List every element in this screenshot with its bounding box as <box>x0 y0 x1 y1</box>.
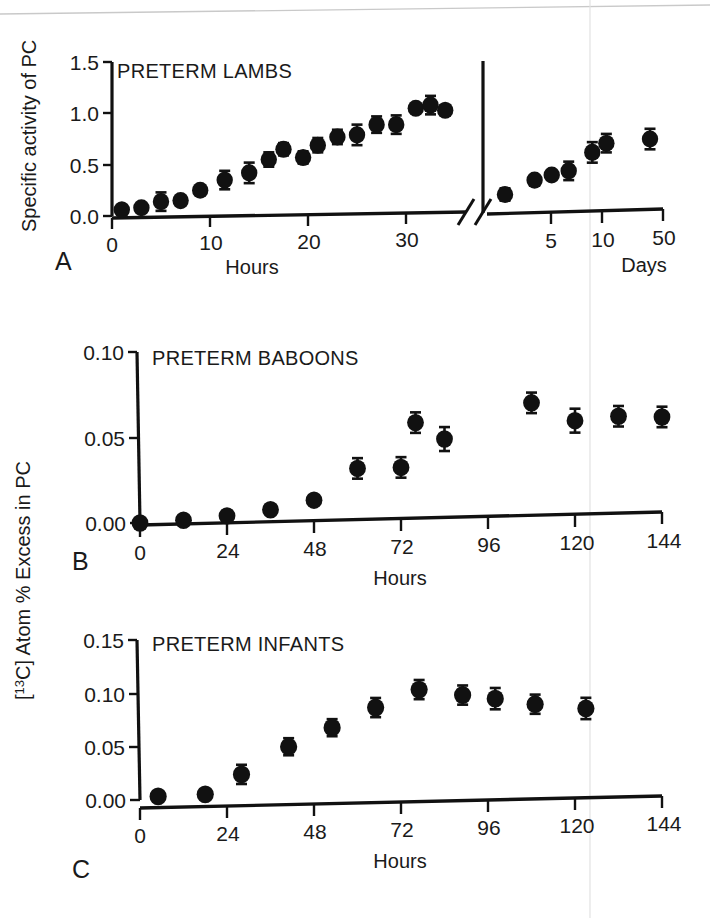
panel-c-y-axis <box>137 640 140 800</box>
panel-c-xlabel-24: 24 <box>216 822 240 845</box>
data-point <box>241 163 257 184</box>
panel-c-xlabel-96: 96 <box>477 816 500 839</box>
panel-c-xlabel-0: 0 <box>134 824 146 847</box>
data-point <box>367 698 384 717</box>
marker-dot <box>437 102 453 119</box>
multi-panel-figure: Specific activity of PC A PRETERM LAMBS … <box>0 0 710 918</box>
panel-a-xlabel-30: 30 <box>395 228 418 251</box>
data-point <box>153 192 169 210</box>
marker-dot <box>654 408 671 425</box>
data-point <box>192 182 208 199</box>
panel-c-xlabel-48: 48 <box>303 820 326 843</box>
panel-b-ylabel-0.05: 0.05 <box>84 427 125 450</box>
marker-dot <box>261 151 277 168</box>
data-point <box>132 514 149 531</box>
data-point <box>349 125 365 146</box>
shared-ylabel-rest: C] Atom % Excess in PC <box>12 461 34 680</box>
marker-dot <box>642 131 658 148</box>
panel-b-xlabel-48: 48 <box>303 537 326 560</box>
data-point <box>454 685 471 704</box>
marker-dot <box>388 116 404 133</box>
marker-dot <box>241 164 257 181</box>
data-point <box>280 738 297 756</box>
data-point <box>598 134 614 152</box>
data-point <box>526 172 542 189</box>
panel-a-xlabel-50d: 50 <box>652 226 675 249</box>
data-point <box>175 512 192 529</box>
panel-b-title: PRETERM BABOONS <box>152 347 359 369</box>
marker-dot <box>577 700 594 718</box>
panel-a-xlabel-20: 20 <box>297 230 320 253</box>
data-point <box>610 406 627 427</box>
data-point <box>654 407 671 428</box>
panel-c-xlabel-72: 72 <box>390 818 413 841</box>
data-point <box>172 192 188 209</box>
data-point <box>544 166 560 183</box>
panel-b-xtitle: Hours <box>373 567 426 589</box>
panel-a-ylabel-1.5: 1.5 <box>70 51 99 74</box>
panel-a-ylabel: Specific activity of PC <box>18 40 40 232</box>
panel-a-series-hours <box>114 96 454 218</box>
marker-dot <box>436 430 453 447</box>
marker-dot <box>349 126 365 143</box>
data-point <box>349 458 366 479</box>
panel-b-xlabel-24: 24 <box>216 539 240 562</box>
marker-dot <box>367 699 384 717</box>
marker-dot <box>526 172 542 189</box>
data-point <box>233 765 250 784</box>
panel-b-xlabel-0: 0 <box>134 541 146 564</box>
panel-a-xtitle-hours: Hours <box>225 256 278 278</box>
marker-dot <box>262 501 279 518</box>
panel-c-letter: C <box>72 855 90 883</box>
data-point <box>561 162 577 180</box>
panel-b-xlabel-72: 72 <box>390 535 413 558</box>
marker-dot <box>454 686 471 704</box>
panel-c-ylabel-0.00: 0.00 <box>85 789 126 812</box>
data-point <box>150 787 167 805</box>
panel-a-title: PRETERM LAMBS <box>117 60 292 82</box>
data-point <box>324 719 341 737</box>
data-point <box>407 412 424 433</box>
marker-dot <box>192 182 208 199</box>
marker-dot <box>610 408 627 425</box>
marker-dot <box>561 162 577 179</box>
marker-dot <box>172 192 188 209</box>
marker-dot <box>393 459 410 476</box>
panel-c-ylabel-0.10: 0.10 <box>84 683 125 706</box>
marker-dot <box>324 719 341 737</box>
data-point <box>487 688 504 709</box>
panel-a-x-axis-days <box>487 209 663 214</box>
data-point <box>567 409 584 433</box>
panel-a-xlabel-10d: 10 <box>591 228 614 251</box>
panel-a-letter: A <box>55 247 72 275</box>
marker-dot <box>153 193 169 210</box>
panel-a: Specific activity of PC A PRETERM LAMBS … <box>18 40 676 278</box>
panel-c-xtitle: Hours <box>373 850 426 872</box>
marker-dot <box>233 765 250 783</box>
panel-a-ylabel-1.0: 1.0 <box>70 102 99 125</box>
data-point <box>642 129 658 150</box>
marker-dot <box>310 137 326 154</box>
data-point <box>422 96 438 114</box>
data-point <box>262 501 279 518</box>
panel-b-ylabel-0.10: 0.10 <box>83 341 124 364</box>
data-point <box>436 427 453 451</box>
panel-a-xlabel-5d: 5 <box>545 229 557 252</box>
data-point <box>437 102 453 119</box>
marker-dot <box>407 414 424 431</box>
panel-b-letter: B <box>72 547 89 575</box>
data-point <box>577 698 594 719</box>
shared-ylabel-isotope: [13C] Atom % Excess in PC <box>12 461 34 700</box>
marker-dot <box>132 514 149 531</box>
marker-dot <box>275 141 291 158</box>
panel-a-xlabel-0: 0 <box>106 233 118 256</box>
panel-a-series-days <box>497 129 658 203</box>
panel-b-xlabel-144: 144 <box>646 529 681 552</box>
marker-dot <box>219 507 236 524</box>
panel-a-ylabel-0.5: 0.5 <box>70 154 99 177</box>
data-point <box>219 507 236 524</box>
marker-dot <box>133 199 149 216</box>
panel-b-xlabel-120: 120 <box>559 531 594 554</box>
panel-a-ylabel-0.0: 0.0 <box>70 205 99 228</box>
data-point <box>408 100 424 117</box>
